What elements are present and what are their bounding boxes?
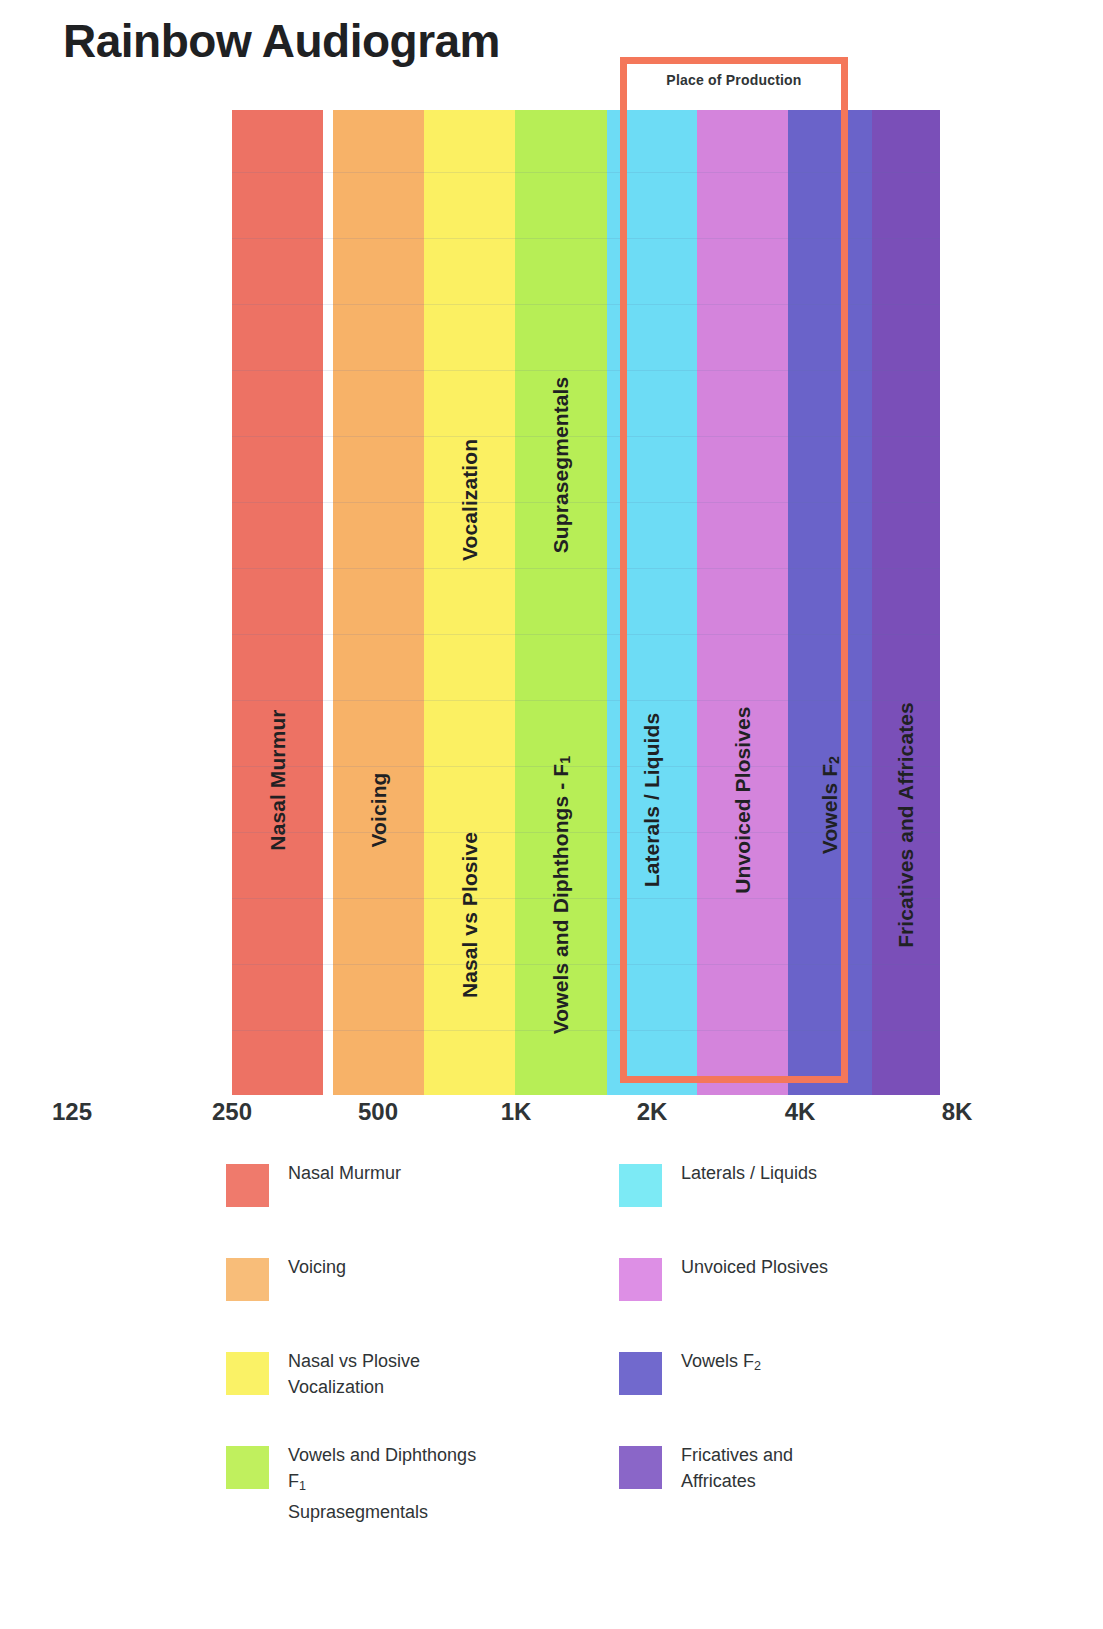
- band-nasal-murmur: Nasal Murmur: [232, 110, 323, 1095]
- legend-label-line: Nasal Murmur: [288, 1160, 401, 1186]
- band-label-vowels-diphthongs-f1: Vowels and Diphthongs - F1: [549, 756, 574, 1034]
- legend-label-line: Suprasegmentals: [288, 1499, 476, 1525]
- band-fricatives-affricates: Fricatives and Affricates: [872, 110, 940, 1095]
- legend-label-line: Voicing: [288, 1254, 346, 1280]
- legend-label-vowels-f2: Vowels F2: [681, 1348, 761, 1379]
- caption-sliver: [60, 1620, 1040, 1629]
- legend-column-right: Laterals / LiquidsUnvoiced PlosivesVowel…: [619, 1150, 1049, 1526]
- band-label-fricatives-affricates: Fricatives and Affricates: [894, 702, 918, 948]
- band-label-nasal-murmur: Nasal Murmur: [266, 709, 290, 850]
- x-axis-tick-4K: 4K: [755, 1098, 845, 1126]
- plot-area: Nasal MurmurVoicingNasal vs PlosiveVowel…: [0, 0, 1103, 1100]
- legend-label-line: Vocalization: [288, 1374, 420, 1400]
- x-axis-tick-8K: 8K: [912, 1098, 1002, 1126]
- legend-swatch-vowels-and-diphthongs: [226, 1446, 269, 1489]
- legend-item-fricatives-affricates[interactable]: Fricatives andAffricates: [619, 1432, 1049, 1526]
- band-nasal-vs-plosive: Nasal vs Plosive: [424, 110, 515, 1095]
- legend-label-fricatives-affricates: Fricatives andAffricates: [681, 1442, 793, 1494]
- legend-label-nasal-murmur: Nasal Murmur: [288, 1160, 401, 1186]
- legend-item-nasal-vs-plosive[interactable]: Nasal vs PlosiveVocalization: [226, 1338, 656, 1432]
- place-of-production-label: Place of Production: [620, 72, 848, 88]
- band-label-nasal-vs-plosive: Nasal vs Plosive: [458, 832, 482, 998]
- band-vowels-diphthongs-f1: Vowels and Diphthongs - F1: [515, 110, 607, 1095]
- legend-item-voicing[interactable]: Voicing: [226, 1244, 656, 1338]
- legend-swatch-fricatives-affricates: [619, 1446, 662, 1489]
- band-voicing: Voicing: [333, 110, 424, 1095]
- legend-swatch-nasal-murmur: [226, 1164, 269, 1207]
- band-label-vocalization: Vocalization: [458, 439, 482, 561]
- legend-label-line: Vowels and Diphthongs: [288, 1442, 476, 1468]
- legend-label-vowels-and-diphthongs: Vowels and DiphthongsF1Suprasegmentals: [288, 1442, 476, 1525]
- legend-item-vowels-f2[interactable]: Vowels F2: [619, 1338, 1049, 1432]
- legend-column-left: Nasal MurmurVoicingNasal vs PlosiveVocal…: [226, 1150, 656, 1526]
- place-of-production-box: [620, 57, 848, 1083]
- legend-label-line: Nasal vs Plosive: [288, 1348, 420, 1374]
- legend-item-nasal-murmur[interactable]: Nasal Murmur: [226, 1150, 656, 1244]
- legend-item-unvoiced-plosives[interactable]: Unvoiced Plosives: [619, 1244, 1049, 1338]
- x-axis-tick-1K: 1K: [471, 1098, 561, 1126]
- x-axis-tick-250: 250: [187, 1098, 277, 1126]
- legend-item-laterals-liquids[interactable]: Laterals / Liquids: [619, 1150, 1049, 1244]
- legend-item-vowels-and-diphthongs[interactable]: Vowels and DiphthongsF1Suprasegmentals: [226, 1432, 656, 1526]
- x-axis-tick-500: 500: [333, 1098, 423, 1126]
- band-label-suprasegmentals: Suprasegmentals: [549, 377, 573, 554]
- legend-swatch-nasal-vs-plosive: [226, 1352, 269, 1395]
- legend: Nasal MurmurVoicingNasal vs PlosiveVocal…: [0, 1150, 1103, 1570]
- x-axis-tick-2K: 2K: [607, 1098, 697, 1126]
- legend-label-line: Unvoiced Plosives: [681, 1254, 828, 1280]
- x-axis-tick-125: 125: [27, 1098, 117, 1126]
- legend-label-line: Laterals / Liquids: [681, 1160, 817, 1186]
- legend-label-line: Affricates: [681, 1468, 793, 1494]
- legend-label-nasal-vs-plosive: Nasal vs PlosiveVocalization: [288, 1348, 420, 1400]
- legend-label-unvoiced-plosives: Unvoiced Plosives: [681, 1254, 828, 1280]
- x-axis: 1252505001K2K4K8K: [0, 1098, 1103, 1144]
- legend-label-line: F1: [288, 1468, 476, 1499]
- legend-swatch-vowels-f2: [619, 1352, 662, 1395]
- legend-swatch-voicing: [226, 1258, 269, 1301]
- legend-swatch-unvoiced-plosives: [619, 1258, 662, 1301]
- legend-label-laterals-liquids: Laterals / Liquids: [681, 1160, 817, 1186]
- legend-label-line: Fricatives and: [681, 1442, 793, 1468]
- legend-label-line: Vowels F2: [681, 1348, 761, 1379]
- legend-swatch-laterals-liquids: [619, 1164, 662, 1207]
- legend-label-voicing: Voicing: [288, 1254, 346, 1280]
- rainbow-audiogram-figure: Rainbow Audiogram Nasal MurmurVoicingNas…: [0, 0, 1103, 1629]
- band-label-voicing: Voicing: [367, 773, 391, 848]
